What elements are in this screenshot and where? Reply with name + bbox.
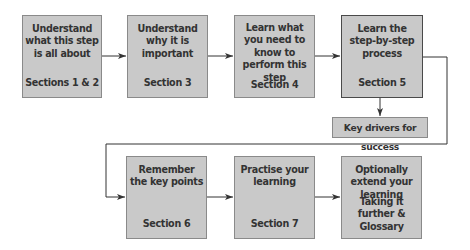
step-title: Practise your learning (237, 164, 312, 189)
step-section: Section 6 (129, 218, 204, 230)
step-section: Section 7 (237, 218, 312, 230)
step-box-taking-it-further: Optionally extend your learning Taking i… (341, 156, 422, 239)
step-box-section-5: Learn the step-by-step process Section 5 (341, 15, 423, 98)
step-section: Section 4 (237, 79, 312, 91)
step-section: Section 5 (344, 77, 420, 89)
step-title: Understand what this step is all about (25, 23, 99, 60)
key-drivers-box: Key drivers for success (332, 117, 428, 138)
step-box-section-7: Practise your learning Section 7 (234, 156, 315, 239)
step-title: Remember the key points (129, 164, 204, 189)
step-box-section-4: Learn what you need to know to perform t… (234, 15, 315, 98)
step-box-section-3: Understand why it is important Section 3 (127, 15, 208, 98)
step-title: Learn what you need to know to perform t… (237, 22, 312, 84)
step-title: Understand why it is important (130, 23, 205, 60)
step-section: Sections 1 & 2 (25, 77, 99, 89)
step-section: Section 3 (130, 77, 205, 89)
step-title: Learn the step-by-step process (344, 23, 420, 60)
step-box-sections-1-2: Understand what this step is all about S… (22, 15, 102, 98)
step-box-section-6: Remember the key points Section 6 (126, 156, 207, 239)
step-section: Taking it further & Glossary (344, 196, 419, 233)
